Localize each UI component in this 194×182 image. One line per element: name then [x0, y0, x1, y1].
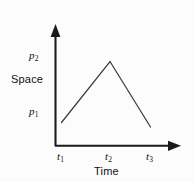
x-tick-label-t2-sub: 2: [108, 155, 112, 164]
plot-area: [0, 0, 194, 182]
x-tick-label-t1-sub: 1: [60, 155, 64, 164]
y-axis-title: Space: [11, 74, 43, 85]
data-series-line: [62, 62, 151, 128]
y-axis-arrowhead: [51, 24, 61, 37]
y-tick-label-p2: p2: [29, 50, 38, 61]
x-tick-label-t3: t3: [146, 151, 153, 162]
y-tick-label-p2-sub: 2: [35, 54, 39, 63]
space-time-diagram-figure: p2 p1 Space t1 t2 t3 Time: [0, 0, 194, 182]
y-tick-label-p1-sub: 1: [35, 110, 39, 119]
y-tick-label-p1: p1: [29, 106, 38, 117]
x-tick-label-t1: t1: [57, 151, 64, 162]
x-tick-label-t2: t2: [105, 151, 112, 162]
y-tick-label-p2-base: p: [29, 49, 35, 61]
x-axis-title: Time: [94, 166, 119, 177]
x-axis-arrowhead: [168, 141, 181, 151]
y-tick-label-p1-base: p: [29, 105, 35, 117]
x-tick-label-t3-sub: 3: [149, 155, 153, 164]
